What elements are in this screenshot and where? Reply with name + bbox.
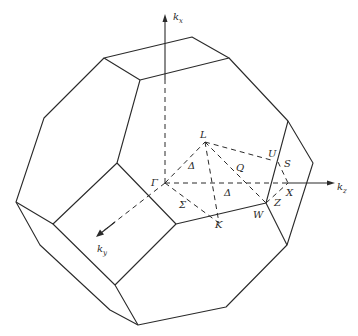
kz-arrow-icon	[327, 181, 335, 186]
q-label: Q	[236, 162, 244, 173]
ky-axis	[101, 222, 115, 233]
k-label: K	[214, 219, 223, 230]
l-u-line	[205, 142, 271, 160]
kz-label: kz	[337, 181, 347, 195]
z-label: Z	[273, 197, 282, 208]
s-label: S	[284, 158, 291, 169]
edge-lower-square	[115, 224, 176, 285]
kx-arrow-icon	[163, 14, 168, 22]
gamma-k-line	[165, 183, 219, 223]
kx-label: kx	[173, 11, 183, 25]
labels: kx ky kz Γ L U S X Z W K Q Δ Δ Σ	[97, 11, 347, 257]
axes	[96, 14, 335, 237]
top-face	[104, 37, 229, 80]
gamma-label: Γ	[150, 177, 159, 188]
edge-right-square	[266, 203, 287, 245]
edge-left-hex	[16, 80, 140, 224]
ky-label: ky	[97, 243, 108, 257]
w-label: W	[253, 209, 264, 220]
gamma-l-line	[165, 142, 205, 183]
lambda-label: Δ	[187, 160, 195, 171]
ky-arrow-icon	[96, 230, 104, 238]
u-label: U	[268, 148, 277, 159]
x-label: X	[285, 187, 294, 198]
delta-label: Δ	[223, 187, 231, 198]
brillouin-zone-diagram: kx ky kz Γ L U S X Z W K Q Δ Δ Σ	[0, 0, 358, 336]
l-label: L	[199, 129, 207, 140]
sigma-label: Σ	[178, 199, 187, 210]
